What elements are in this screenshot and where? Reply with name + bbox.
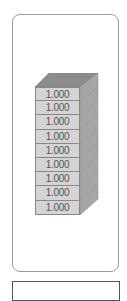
block-label: 1.000	[35, 172, 80, 186]
block-label: 1.000	[35, 87, 80, 101]
answer-box[interactable]	[12, 281, 120, 301]
block-label: 1.000	[35, 115, 80, 129]
block-label: 1.000	[35, 130, 80, 144]
block-label: 1.000	[35, 144, 80, 158]
block-label: 1.000	[35, 186, 80, 200]
block-label: 1.000	[35, 201, 80, 215]
block-label: 1.000	[35, 158, 80, 172]
block-rows: 1.000 1.000 1.000 1.000 1.000 1.000 1.00…	[35, 87, 80, 215]
block-label: 1.000	[35, 101, 80, 115]
